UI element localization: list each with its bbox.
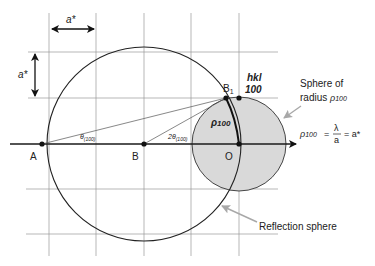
reflection-sphere-pointer bbox=[222, 206, 257, 222]
two-theta-main: 2θ bbox=[167, 133, 176, 140]
point-A bbox=[39, 141, 44, 146]
two-theta-label: 2θ(100) bbox=[167, 133, 188, 142]
point-hkl-100 bbox=[236, 95, 241, 100]
equation-numerator: λ bbox=[334, 123, 339, 133]
equation-rho-sub: 100 bbox=[305, 131, 317, 138]
equation-rhs: = a* bbox=[344, 129, 361, 139]
rho-100-label: ρ100 bbox=[210, 117, 231, 128]
point-B1-sub: 1 bbox=[230, 88, 234, 95]
theta-label: θ(100) bbox=[80, 133, 96, 142]
equation-denominator: a bbox=[334, 135, 339, 145]
radius-rho-sub: 100 bbox=[335, 95, 347, 102]
radius-word: radius bbox=[300, 92, 327, 103]
point-B-label: B bbox=[132, 151, 139, 162]
sphere-radius-pointer bbox=[284, 106, 301, 118]
equation-lhs: ρ100 bbox=[299, 129, 317, 139]
hkl-label: hkl bbox=[247, 72, 262, 83]
point-B bbox=[141, 141, 146, 146]
reflection-sphere-label: Reflection sphere bbox=[259, 221, 337, 232]
point-B1-label: B1 bbox=[223, 83, 234, 95]
two-theta-sub: (100) bbox=[176, 136, 188, 142]
point-B1 bbox=[223, 95, 228, 100]
equation-eq1: = bbox=[324, 129, 329, 139]
a-star-vertical-label: a* bbox=[18, 69, 29, 80]
ewald-diagram: a* a* A B O B1 hkl 100 θ(100) 2θ(100) ρ1… bbox=[0, 0, 375, 266]
point-O-label: O bbox=[225, 151, 233, 162]
theta-sub: (100) bbox=[84, 136, 96, 142]
point-A-label: A bbox=[30, 151, 37, 162]
radius-label: radius ρ100 bbox=[300, 92, 347, 103]
sphere-of-label: Sphere of bbox=[300, 78, 344, 89]
hkl-value: 100 bbox=[245, 84, 262, 95]
rho-sub: 100 bbox=[217, 119, 231, 128]
a-star-horizontal-label: a* bbox=[66, 14, 77, 25]
point-O bbox=[236, 141, 241, 146]
rho-main: ρ bbox=[210, 117, 217, 128]
rho-equation: ρ100 = λ a = a* bbox=[299, 123, 361, 145]
